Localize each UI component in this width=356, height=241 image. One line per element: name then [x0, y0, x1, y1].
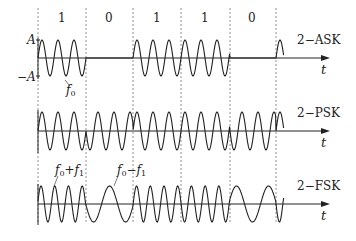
term-sub: 1: [141, 169, 146, 178]
bit-label-2: 0: [105, 12, 113, 24]
f0-annotation: f0: [66, 84, 76, 98]
time-axis-label-fsk: t: [321, 209, 326, 222]
amplitude-negative-label: −A: [17, 71, 36, 83]
operator: +: [65, 163, 75, 177]
amplitude-positive-label: A: [27, 34, 36, 46]
bit-label-5: 0: [248, 12, 256, 24]
f0-sub: 0: [70, 89, 75, 98]
bit-label-4: 1: [201, 12, 209, 24]
operator: −: [127, 163, 137, 177]
fsk-label: 2−FSK: [297, 180, 340, 192]
bit-label-1: 1: [58, 12, 66, 24]
time-axis-label-ask: t: [321, 63, 326, 76]
arrow-head-icon: [321, 128, 330, 134]
arrow-head-icon: [321, 201, 330, 207]
arrow-head-icon: [321, 55, 330, 61]
bit-label-3: 1: [153, 12, 161, 24]
f0-minus-f1-annotation: f0−f1: [117, 164, 146, 178]
term-sub: 1: [79, 169, 84, 178]
time-axis-label-psk: t: [321, 136, 326, 149]
modulation-diagram: 1 0 1 1 0 A −A 2−ASK 2−PSK 2−FSK t t t f…: [0, 0, 356, 241]
psk-label: 2−PSK: [297, 107, 340, 119]
f0-plus-f1-annotation: f0+f1: [55, 164, 84, 178]
ask-label: 2−ASK: [297, 34, 341, 46]
